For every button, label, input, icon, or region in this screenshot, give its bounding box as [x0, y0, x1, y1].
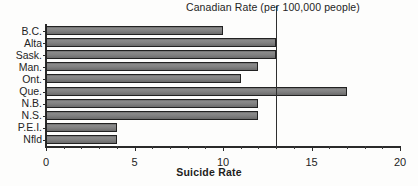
bar-pei: [46, 123, 117, 132]
bar-row: [46, 25, 400, 37]
y-axis-tick: [43, 92, 47, 93]
x-axis-minor-tick: [170, 146, 171, 149]
bar-man: [46, 62, 258, 71]
bar-alta: [46, 38, 276, 47]
y-axis-tick: [43, 31, 47, 32]
category-label-nfld: Nfld: [0, 133, 42, 145]
x-axis-minor-tick: [152, 146, 153, 149]
bar-row: [46, 73, 400, 85]
bar-bc: [46, 26, 223, 35]
category-label-ont: Ont.: [0, 73, 42, 85]
x-axis-minor-tick: [294, 146, 295, 149]
category-label-pei: P.E.I.: [0, 121, 42, 133]
y-axis-tick: [43, 43, 47, 44]
bar-row: [46, 110, 400, 122]
bar-row: [46, 98, 400, 110]
bar-row: [46, 49, 400, 61]
bar-row: [46, 37, 400, 49]
canadian-rate-reference-line: [276, 6, 277, 146]
bar-sask: [46, 50, 276, 59]
category-label-sask: Sask.: [0, 49, 42, 61]
bar-row: [46, 134, 400, 146]
x-axis-minor-tick: [81, 146, 82, 149]
y-axis-tick: [43, 128, 47, 129]
category-label-que: Que.: [0, 85, 42, 97]
x-axis-title: Suicide Rate: [0, 166, 418, 178]
y-axis-tick: [43, 55, 47, 56]
bar-nb: [46, 99, 258, 108]
x-axis-major-tick: [135, 146, 136, 151]
category-label-ns: N.S.: [0, 109, 42, 121]
bar-chart: Canadian Rate (per 100,000 people) B.C.A…: [0, 0, 418, 186]
x-axis-major-tick: [223, 146, 224, 151]
bar-series: [46, 25, 400, 146]
x-axis-minor-tick: [205, 146, 206, 149]
category-label-man: Man.: [0, 61, 42, 73]
y-axis-tick: [43, 67, 47, 68]
x-axis-minor-tick: [188, 146, 189, 149]
category-axis-labels: B.C.AltaSask.Man.Ont.Que.N.B.N.S.P.E.I.N…: [0, 25, 42, 146]
bar-nfld: [46, 135, 117, 144]
x-axis-major-tick: [400, 146, 401, 151]
canadian-rate-annotation-label: Canadian Rate (per 100,000 people): [186, 1, 360, 14]
bar-row: [46, 86, 400, 98]
x-axis-minor-tick: [365, 146, 366, 149]
x-axis-minor-tick: [117, 146, 118, 149]
x-axis-minor-tick: [329, 146, 330, 149]
bar-ont: [46, 74, 241, 83]
x-axis-minor-tick: [99, 146, 100, 149]
x-axis-minor-tick: [241, 146, 242, 149]
x-axis-minor-tick: [347, 146, 348, 149]
bar-row: [46, 122, 400, 134]
bar-que: [46, 87, 347, 96]
y-axis-tick: [43, 79, 47, 80]
bar-row: [46, 61, 400, 73]
x-axis-minor-tick: [64, 146, 65, 149]
y-axis-tick: [43, 140, 47, 141]
x-axis-major-tick: [312, 146, 313, 151]
y-axis-tick: [43, 104, 47, 105]
x-axis-minor-tick: [382, 146, 383, 149]
category-label-alta: Alta: [0, 37, 42, 49]
category-label-nb: N.B.: [0, 97, 42, 109]
y-axis-tick: [43, 116, 47, 117]
plot-area: 05101520: [46, 25, 400, 146]
x-axis-major-tick: [46, 146, 47, 151]
x-axis-minor-tick: [276, 146, 277, 149]
category-label-bc: B.C.: [0, 25, 42, 37]
x-axis-minor-tick: [258, 146, 259, 149]
bar-ns: [46, 111, 258, 120]
